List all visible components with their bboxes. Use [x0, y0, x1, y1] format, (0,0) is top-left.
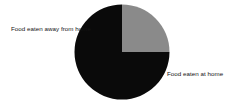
pie-chart-figure: Food eaten away from home Food eaten at … — [0, 0, 232, 104]
pie-chart-svg — [0, 0, 232, 104]
pie-label-food-eaten-at-home: Food eaten at home — [167, 71, 223, 77]
pie-label-food-eaten-away-from-home: Food eaten away from home — [11, 26, 91, 32]
pie-slice-food-eaten-away-from-home — [122, 5, 170, 53]
